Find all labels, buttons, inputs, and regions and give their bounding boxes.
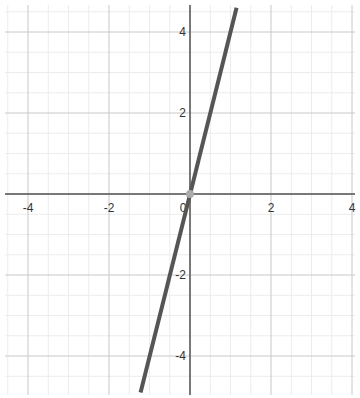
major-grid: [5, 5, 355, 395]
x-tick-label: 2: [268, 201, 275, 215]
x-tick-label: -2: [104, 201, 115, 215]
x-tick-label: -4: [23, 201, 34, 215]
y-tick-label: -2: [175, 268, 186, 282]
x-tick-label: 4: [349, 201, 356, 215]
plotted-line: [141, 8, 237, 393]
axes: [5, 5, 355, 395]
y-tick-label: 2: [179, 106, 186, 120]
y-tick-label: -4: [175, 349, 186, 363]
y-tick-label: 4: [179, 25, 186, 39]
origin-point[interactable]: [186, 190, 194, 198]
minor-grid: [5, 5, 355, 395]
function-line[interactable]: [141, 8, 237, 393]
point-marker[interactable]: [186, 190, 194, 198]
coordinate-plane: -4-202442-2-4: [0, 0, 360, 398]
